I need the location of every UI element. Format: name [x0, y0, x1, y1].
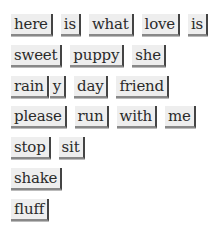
word-tile[interactable]: what — [89, 14, 134, 36]
word-tile[interactable]: with — [117, 106, 158, 128]
word-row-7: fluff — [11, 199, 49, 221]
magnet-word-board: here is what love is sweet puppy she rai… — [0, 0, 209, 234]
word-tile[interactable]: is — [188, 14, 208, 36]
word-row-3: rain y day friend — [11, 76, 169, 98]
word-tile[interactable]: please — [11, 106, 67, 128]
word-tile[interactable]: fluff — [11, 199, 49, 221]
word-tile[interactable]: run — [75, 106, 109, 128]
word-tile[interactable]: y — [50, 76, 66, 98]
word-tile[interactable]: she — [132, 45, 166, 67]
word-tile[interactable]: shake — [11, 168, 62, 190]
word-tile[interactable]: friend — [116, 76, 168, 98]
word-row-2: sweet puppy she — [11, 45, 166, 67]
word-tile[interactable]: here — [11, 14, 53, 36]
word-tile[interactable]: sweet — [11, 45, 62, 67]
word-tile[interactable]: sit — [59, 137, 85, 159]
word-tile[interactable]: is — [61, 14, 81, 36]
word-row-6: shake — [11, 168, 62, 190]
word-tile[interactable]: me — [165, 106, 196, 128]
word-tile[interactable]: rain — [11, 76, 49, 98]
word-tile[interactable]: stop — [11, 137, 51, 159]
word-row-4: please run with me — [11, 106, 196, 128]
word-row-1: here is what love is — [11, 14, 208, 36]
word-tile[interactable]: puppy — [70, 45, 124, 67]
word-tile[interactable]: love — [142, 14, 180, 36]
word-tile[interactable]: day — [74, 76, 108, 98]
word-row-5: stop sit — [11, 137, 85, 159]
